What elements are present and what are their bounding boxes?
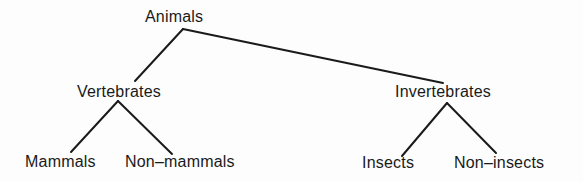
node-invertebrates: Invertebrates [395, 84, 491, 100]
node-non-insects: Non–insects [454, 155, 544, 171]
edge-animals-vertebrates [135, 29, 183, 81]
edge-invertebrates-noninsects [447, 103, 496, 153]
edge-vertebrates-mammals [71, 101, 118, 152]
node-mammals: Mammals [25, 154, 96, 170]
node-vertebrates: Vertebrates [77, 84, 161, 100]
node-animals: Animals [145, 9, 203, 25]
edge-vertebrates-nonmammals [118, 101, 172, 154]
node-non-mammals: Non–mammals [125, 154, 235, 170]
edge-invertebrates-insects [402, 103, 447, 156]
edge-animals-invertebrates [183, 29, 443, 83]
node-insects: Insects [362, 155, 414, 171]
